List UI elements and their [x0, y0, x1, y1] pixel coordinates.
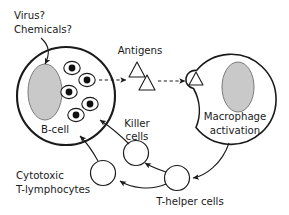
vesicle-core — [66, 89, 73, 96]
label-cytotoxic-line1: Cytotoxic — [16, 170, 64, 181]
b-cell-nucleus — [28, 64, 62, 120]
vesicle-core — [73, 112, 80, 119]
label-virus: Virus? — [14, 10, 45, 21]
vesicle-core — [69, 65, 76, 72]
label-t-helper: T-helper cells — [155, 196, 224, 207]
immune-response-diagram: Virus? Chemicals? Antigens B-cell Macrop… — [0, 0, 289, 215]
vesicle-core — [87, 101, 94, 108]
label-b-cell: B-cell — [41, 124, 69, 135]
label-macrophage-line1: Macrophage — [204, 111, 267, 122]
arrow-thelper-to-cytotoxic — [120, 181, 166, 188]
diagram-canvas: Virus? Chemicals? Antigens B-cell Macrop… — [0, 0, 289, 215]
antigen-triangle-1 — [129, 62, 145, 77]
arrow-macrophage-to-thelper — [193, 143, 229, 178]
vesicle-core — [84, 77, 91, 84]
label-antigens: Antigens — [118, 45, 163, 56]
macrophage-nucleus — [222, 62, 254, 112]
label-cytotoxic-line2: T-lymphocytes — [15, 184, 90, 195]
t-helper-cell — [165, 166, 190, 191]
killer-cell — [124, 141, 149, 166]
label-killer-line2: cells — [126, 131, 149, 142]
cytotoxic-t-lymphocyte-cell — [91, 161, 116, 186]
label-chemicals: Chemicals? — [14, 24, 72, 35]
label-killer-line1: Killer — [124, 118, 150, 129]
arrow-thelper-to-killer — [145, 163, 166, 172]
label-macrophage-line2: activation — [210, 125, 260, 136]
